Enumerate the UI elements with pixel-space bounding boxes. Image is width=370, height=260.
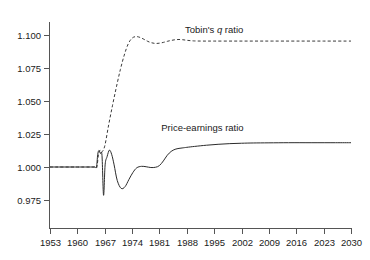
y-tick-label: 1.075 [17,63,41,74]
y-tick-label: 0.975 [17,195,41,206]
x-tick-label: 2023 [314,237,335,248]
x-tick-label: 2009 [259,237,280,248]
x-tick-label: 1960 [67,237,88,248]
x-tick-label: 1981 [149,237,170,248]
series-label-tobins-q-ratio: Tobin's q ratio [185,24,243,35]
y-tick-label: 1.025 [17,129,41,140]
x-tick-label: 1988 [177,237,198,248]
x-tick-label: 2016 [286,237,307,248]
series-label-price-earnings-ratio: Price-earnings ratio [161,122,243,133]
x-tick-label: 1995 [204,237,225,248]
x-tick-label: 2002 [232,237,253,248]
y-tick-label: 1.000 [17,162,41,173]
line-chart: 0.9751.0001.0251.0501.0751.100 195319601… [0,0,370,260]
chart-figure: 0.9751.0001.0251.0501.0751.100 195319601… [0,0,370,260]
x-tick-label: 1967 [95,237,116,248]
y-tick-label: 1.100 [17,30,41,41]
x-tick-label: 1953 [40,237,61,248]
x-tick-label: 1974 [122,237,143,248]
y-tick-label: 1.050 [17,96,41,107]
x-tick-label: 2030 [341,237,362,248]
